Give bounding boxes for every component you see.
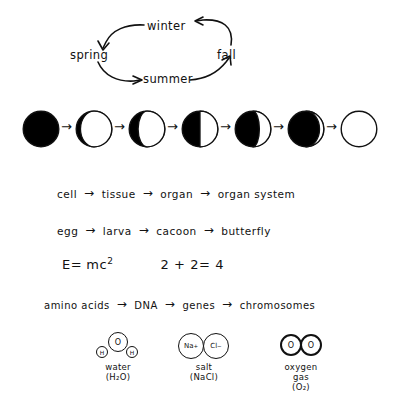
- moon-phase-waxing-crescent-thin: [75, 110, 113, 148]
- molecule-salt-art: Na+ Cl−: [158, 332, 250, 362]
- moon-phase-waxing-gibbous: [234, 110, 272, 148]
- chain-term: cacoon: [156, 225, 196, 237]
- chain-arrow-icon: →: [200, 186, 211, 200]
- atom-hydrogen-right: H: [126, 346, 138, 358]
- chain-arrow-icon: →: [139, 223, 150, 237]
- atom-chloride: Cl−: [203, 333, 229, 359]
- atom-oxygen-right: O: [300, 334, 322, 356]
- caption-line: (H₂O): [72, 372, 164, 382]
- molecule-salt-caption: salt (NaCl): [158, 362, 250, 382]
- moon-phase-waxing-gibbous-large: [287, 110, 325, 148]
- season-label-summer: summer: [143, 72, 193, 86]
- equation-arithmetic: 2 + 2= 4: [160, 257, 224, 272]
- molecule-oxygen-caption: oxygen gas (O₂): [252, 362, 350, 392]
- equation-mass-energy: E=mc2: [62, 256, 114, 272]
- molecule-oxygen: O O oxygen gas (O₂): [252, 332, 350, 392]
- season-label-spring: spring: [70, 48, 108, 62]
- caption-line: (NaCl): [158, 372, 250, 382]
- atom-oxygen: O: [108, 332, 128, 352]
- caption-line: (O₂): [252, 382, 350, 392]
- seasons-cycle-diagram: winter spring summer fall: [0, 0, 403, 100]
- molecule-oxygen-art: O O: [252, 332, 350, 362]
- chain-arrow-icon: →: [204, 223, 215, 237]
- chain-term: DNA: [134, 300, 158, 311]
- molecule-salt: Na+ Cl− salt (NaCl): [158, 332, 250, 382]
- season-label-winter: winter: [147, 19, 186, 33]
- molecule-water: O H H water (H₂O): [72, 332, 164, 382]
- arrow-winter-to-spring: [103, 25, 144, 48]
- chain-term: chromosomes: [240, 300, 316, 311]
- caption-line: salt: [158, 362, 250, 372]
- molecules-row: O H H water (H₂O) Na+ Cl− salt (NaCl) O …: [0, 332, 403, 407]
- chain-term: organ system: [218, 188, 296, 200]
- chain-cell-to-organ-system: cell→tissue→organ→organ system: [57, 186, 403, 200]
- chain-egg-to-butterfly: egg→larva→cacoon→butterfly: [57, 223, 403, 237]
- chain-term: egg: [57, 225, 78, 237]
- chain-arrow-icon: →: [84, 186, 95, 200]
- molecule-water-art: O H H: [72, 332, 164, 362]
- chain-term: genes: [182, 300, 215, 311]
- equation-base: mc: [86, 257, 107, 272]
- caption-line: gas: [252, 372, 350, 382]
- chain-arrow-icon: →: [117, 297, 128, 311]
- caption-line: oxygen: [252, 362, 350, 372]
- atom-hydrogen-left: H: [96, 346, 108, 358]
- chain-term: tissue: [102, 188, 136, 200]
- chain-arrow-icon: →: [143, 186, 154, 200]
- moon-phases-diagram: →→→→→→: [0, 104, 403, 162]
- season-label-fall: fall: [217, 48, 236, 62]
- notebook-page: winter spring summer fall →→→→→→ cell→ti…: [0, 0, 403, 407]
- chain-term: amino acids: [44, 300, 110, 311]
- chain-arrow-icon: →: [85, 223, 96, 237]
- moon-phase-waxing-crescent: [128, 110, 166, 148]
- chain-term: larva: [103, 225, 132, 237]
- moon-phase-new-moon: [22, 110, 60, 148]
- chain-arrow-icon: →: [222, 297, 233, 311]
- molecule-water-caption: water (H₂O): [72, 362, 164, 382]
- arrow-spring-to-summer: [98, 62, 140, 81]
- chain-term: organ: [160, 188, 193, 200]
- moon-phase-first-quarter: [181, 110, 219, 148]
- chain-arrow-icon: →: [165, 297, 176, 311]
- equations-row: E=mc2 2 + 2= 4: [62, 256, 224, 272]
- chain-term: butterfly: [221, 225, 271, 237]
- caption-line: water: [72, 362, 164, 372]
- equation-lhs: E=: [62, 257, 82, 272]
- atom-oxygen-left: O: [280, 334, 302, 356]
- moon-phase-full-moon: [340, 110, 378, 148]
- atom-sodium: Na+: [178, 333, 204, 359]
- equation-exponent: 2: [107, 256, 113, 266]
- chain-amino-acids-to-chromosomes: amino acids→DNA→genes→chromosomes: [44, 297, 403, 311]
- chain-term: cell: [57, 188, 77, 200]
- seasons-cycle-arrows: [0, 0, 403, 100]
